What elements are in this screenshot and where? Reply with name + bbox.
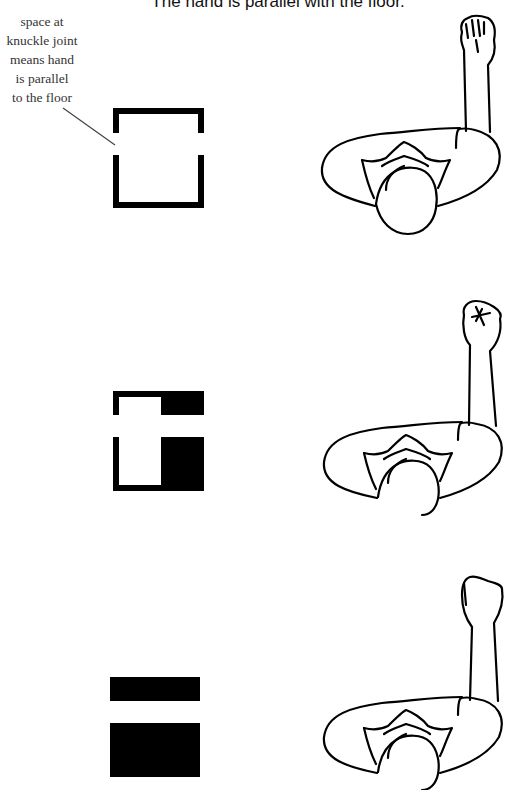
figure-arm-fist-dropped <box>0 0 516 790</box>
